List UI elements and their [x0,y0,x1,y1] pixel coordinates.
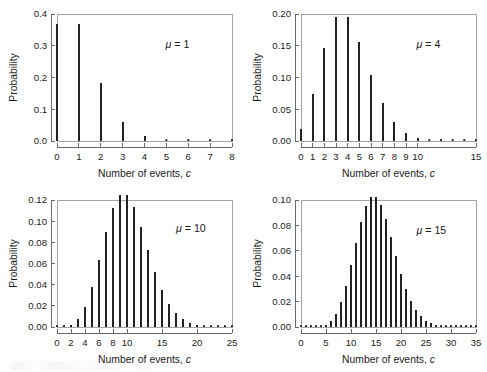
x-tick-label: 9 [403,151,408,162]
plot-frame [57,200,232,327]
y-tick-label: 0.00 [272,135,291,146]
x-tick-label: 25 [227,337,238,348]
x-tick-label: 4 [344,151,350,162]
y-tick-label: 0.10 [272,72,291,83]
data-point-marker [217,325,219,327]
y-tick-label: 0.04 [272,271,291,282]
panel-mu-15: 0.000.020.040.060.080.1005101520253035μ … [244,186,487,372]
panel-mu-4: 0.000.050.100.150.2001234567891015μ = 4N… [244,0,487,186]
data-point-marker [315,325,317,327]
y-axis-title: Probability [252,52,263,101]
x-tick-label: 8 [391,151,396,162]
data-point-marker [231,325,233,327]
y-tick-label: 0.20 [272,8,291,19]
y-tick-label: 0.02 [28,300,47,311]
data-point-marker [440,139,442,141]
mu-annotation: μ = 10 [175,222,206,234]
y-tick-label: 0.10 [28,216,47,227]
plot-frame [301,14,476,141]
mu-annotation: μ = 4 [415,38,440,50]
data-point-marker [451,139,453,141]
x-tick-label: 10 [412,151,423,162]
x-tick-label: 1 [76,151,81,162]
x-tick-label: 20 [395,337,406,348]
panel-chart-mu-15: 0.000.020.040.060.080.1005101520253035μ … [244,186,487,372]
poisson-distribution-figure: 0.00.10.20.30.4012345678μ = 1Number of e… [0,0,487,372]
x-tick-label: 4 [82,337,88,348]
x-axis-title: Number of events, c [98,354,192,365]
mu-annotation: μ = 15 [415,224,446,236]
data-point-marker [187,139,189,141]
y-tick-label: 0.08 [28,237,47,248]
data-point-marker [465,325,467,327]
x-tick-label: 15 [370,337,381,348]
y-tick-label: 0.02 [272,296,291,307]
data-point-marker [428,139,430,141]
x-tick-label: 7 [207,151,212,162]
x-tick-label: 3 [333,151,338,162]
x-axis-title: Number of events, c [342,354,436,365]
data-point-marker [224,325,226,327]
x-tick-label: 5 [356,151,361,162]
x-tick-label: 20 [192,337,203,348]
data-point-marker [470,325,472,327]
x-tick-label: 0 [298,151,303,162]
x-tick-label: 7 [379,151,384,162]
y-axis-title: Probability [8,52,19,101]
y-tick-label: 0.08 [272,220,291,231]
x-tick-label: 5 [164,151,169,162]
x-tick-label: 3 [120,151,125,162]
y-axis-title: Probability [8,238,19,287]
y-tick-label: 0.4 [34,8,48,19]
data-point-marker [475,325,477,327]
data-point-marker [300,325,302,327]
x-tick-label: 6 [186,151,191,162]
y-tick-label: 0.00 [28,321,47,332]
x-axis-title: Number of events, c [342,168,436,179]
panel-chart-mu-1: 0.00.10.20.30.4012345678μ = 1Number of e… [0,0,244,186]
panel-chart-mu-10: 0.000.020.040.060.080.100.12024681015202… [0,186,244,372]
data-point-marker [320,325,322,327]
x-tick-label: 8 [110,337,115,348]
x-tick-label: 2 [68,337,73,348]
x-tick-label: 0 [54,151,59,162]
data-point-marker [445,325,447,327]
x-tick-label: 15 [470,151,481,162]
y-tick-label: 0.04 [28,279,47,290]
data-point-marker [450,325,452,327]
panel-chart-mu-4: 0.000.050.100.150.2001234567891015μ = 4N… [244,0,487,186]
y-tick-label: 0.1 [34,104,47,115]
x-tick-label: 0 [298,337,303,348]
x-tick-label: 2 [321,151,326,162]
data-point-marker [165,139,167,141]
x-tick-label: 6 [96,337,101,348]
x-tick-label: 0 [54,337,59,348]
data-point-marker [63,325,65,327]
y-tick-label: 0.10 [272,194,291,205]
data-point-marker [475,139,477,141]
y-tick-label: 0.15 [272,40,291,51]
y-tick-label: 0.06 [28,258,47,269]
x-tick-label: 30 [445,337,456,348]
x-tick-label: 10 [345,337,356,348]
data-point-marker [209,139,211,141]
x-axis-title: Number of events, c [98,168,192,179]
x-tick-label: 1 [309,151,314,162]
data-point-marker [310,325,312,327]
data-point-marker [231,139,233,141]
y-tick-label: 0.0 [34,135,47,146]
x-tick-label: 8 [229,151,234,162]
data-point-marker [440,325,442,327]
data-point-marker [460,325,462,327]
data-point-marker [203,325,205,327]
x-tick-label: 6 [368,151,373,162]
x-tick-label: 15 [157,337,168,348]
data-point-marker [56,325,58,327]
y-tick-label: 0.12 [28,194,47,205]
panel-mu-10: 0.000.020.040.060.080.100.12024681015202… [0,186,244,372]
panel-mu-1: 0.00.10.20.30.4012345678μ = 1Number of e… [0,0,244,186]
data-point-marker [463,139,465,141]
data-point-marker [305,325,307,327]
plot-frame [57,14,232,141]
y-tick-label: 0.00 [272,321,291,332]
